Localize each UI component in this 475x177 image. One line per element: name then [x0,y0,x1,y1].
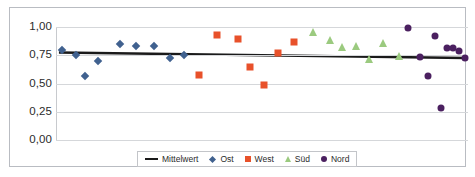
data-point-west [235,36,242,43]
data-point-west [213,32,220,39]
chart-legend: MittelwertOstWestSüdNord [137,151,357,167]
data-point-west [260,81,267,88]
legend-item-label: Süd [295,155,310,164]
data-point-süd [395,52,403,60]
data-point-nord [416,53,423,60]
y-axis-tick-label: 0,50 [12,78,52,90]
data-point-nord [405,25,412,32]
data-point-nord [431,33,438,40]
gridline [56,55,468,56]
data-point-süd [379,39,387,47]
gridline [56,112,468,113]
legend-item-süd[interactable]: Süd [285,155,310,164]
legend-item-label: Nord [331,155,349,164]
data-point-süd [338,43,346,51]
data-point-west [247,64,254,71]
legend-triangle-icon [285,156,291,162]
data-point-west [274,49,281,56]
data-point-nord [456,47,463,54]
data-point-süd [326,36,334,44]
y-axis-tick-label: 0,25 [12,106,52,118]
legend-item-label: Ost [220,155,233,164]
chart-figure: 1,000,750,500,250,00 MittelwertOstWestSü… [0,0,475,177]
data-point-süd [365,55,373,63]
y-axis-tick-label: 1,00 [12,21,52,33]
legend-circle-icon [321,156,327,162]
data-point-west [291,38,298,45]
y-axis-tick-label: 0,75 [12,49,52,61]
data-point-süd [309,28,317,36]
data-point-nord [424,72,431,79]
y-axis-tick-labels: 1,000,750,500,250,00 [10,27,52,140]
data-point-nord [437,104,444,111]
plot-area [56,27,468,140]
legend-square-icon [245,156,251,162]
legend-line-icon [145,158,158,160]
data-point-süd [352,42,360,50]
y-axis-tick-label: 0,00 [12,134,52,146]
legend-item-label: West [255,155,274,164]
gridline [56,140,468,141]
chart-frame: 1,000,750,500,250,00 MittelwertOstWestSü… [9,7,466,167]
legend-item-ost[interactable]: Ost [209,155,233,164]
legend-item-west[interactable]: West [245,155,274,164]
data-point-west [196,72,203,79]
legend-diamond-icon [209,155,216,162]
legend-item-mittelwert[interactable]: Mittelwert [145,155,198,164]
legend-item-nord[interactable]: Nord [321,155,349,164]
data-point-nord [462,54,469,61]
legend-item-label: Mittelwert [162,155,198,164]
